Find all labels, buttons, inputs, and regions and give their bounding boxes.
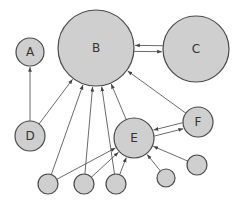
node-E: E [114,118,154,158]
node-circle [106,174,126,194]
node-s4 [157,169,175,187]
edge-F-to-E [154,123,183,130]
node-A: A [16,38,44,66]
node-circle [38,174,58,194]
edge-s4-to-E [147,154,160,171]
edge-s5-to-E [153,146,188,161]
node-label: F [195,115,202,129]
edge-E-to-F [154,129,183,136]
node-label: C [192,42,200,56]
edge-s1-to-B [51,85,83,175]
node-s2 [74,174,94,194]
node-label: B [92,41,100,55]
node-s1 [38,174,58,194]
node-label: A [26,45,35,59]
node-F: F [183,107,213,137]
nodes-layer: ABCDEF [15,10,229,194]
node-C: C [163,16,229,82]
node-label: D [25,129,34,143]
node-circle [74,174,94,194]
node-D: D [15,121,45,151]
network-diagram: ABCDEF [0,0,244,203]
node-B: B [58,10,134,86]
node-circle [187,155,207,175]
edge-F-to-B [128,71,186,113]
edge-s3-to-E [120,158,127,175]
edge-s3-to-B [102,87,115,175]
edge-D-to-B [39,79,73,124]
node-s5 [187,155,207,175]
node-circle [157,169,175,187]
edge-E-to-B [111,84,126,120]
node-label: E [130,131,138,145]
node-s3 [106,174,126,194]
